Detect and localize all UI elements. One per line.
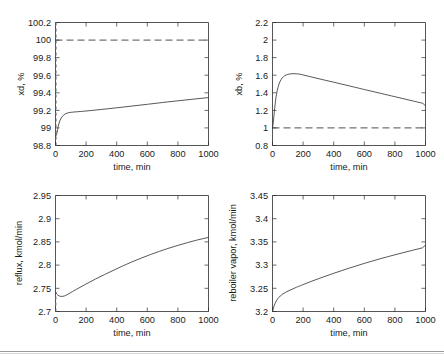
- x-tick-label: 0: [270, 315, 275, 325]
- y-tick-label: 99.8: [33, 53, 51, 63]
- chart-panel-xb: 0.8 1 1.2 1.4 1.6 1.8 2 2.2 0 200 400 60…: [222, 0, 444, 181]
- y-axis-title: xb, %: [234, 73, 244, 96]
- chart-svg-xd: 98.8 99 99.2 99.4 99.6 99.8 100 100.2 0 …: [0, 0, 222, 181]
- x-tick-label: 0: [53, 315, 58, 325]
- figure-bottom-divider-shadow: [0, 353, 444, 354]
- axis-box-xb: [273, 23, 426, 146]
- y-tick-label: 3.35: [250, 237, 268, 247]
- y-axis-title: xd, %: [16, 73, 26, 96]
- x-tick-label: 800: [170, 315, 185, 325]
- y-ticks-xd: [56, 23, 209, 146]
- x-tick-label: 0: [53, 149, 58, 159]
- y-tick-label: 2.2: [255, 18, 268, 28]
- chart-panel-reboiler-vapor: 3.2 3.25 3.3 3.35 3.4 3.45 0 200 400 600…: [222, 181, 444, 351]
- y-tick-label: 1.4: [255, 88, 268, 98]
- x-axis-title: time, min: [330, 162, 367, 172]
- series-reflux: [56, 237, 209, 296]
- chart-panel-xd: 98.8 99 99.2 99.4 99.6 99.8 100 100.2 0 …: [0, 0, 222, 181]
- y-axis-title: reboiler vapor, kmol/min: [228, 204, 238, 302]
- y-ticks-reboiler-vapor: [273, 196, 426, 312]
- axis-box-reboiler-vapor: [273, 196, 426, 312]
- y-axis-title: reflux, kmol/min: [14, 221, 24, 285]
- y-tick-label: 98.8: [33, 141, 51, 151]
- x-tick-label: 400: [109, 149, 124, 159]
- x-axis-title: time, min: [113, 162, 150, 172]
- x-tick-label: 1000: [415, 315, 435, 325]
- x-tick-label: 600: [140, 315, 155, 325]
- x-tick-label: 200: [78, 149, 93, 159]
- y-tick-label: 0.8: [255, 141, 268, 151]
- x-tick-label: 600: [357, 315, 372, 325]
- y-tick-label: 100: [36, 35, 51, 45]
- x-tick-label: 800: [170, 149, 185, 159]
- x-ticks-xb: [273, 23, 426, 146]
- y-tick-label: 2.7: [38, 307, 51, 317]
- y-tick-label: 99.4: [33, 88, 51, 98]
- axis-box-reflux: [56, 196, 209, 312]
- x-tick-label: 200: [78, 315, 93, 325]
- x-axis-title: time, min: [113, 328, 150, 338]
- series-xd: [56, 98, 209, 137]
- y-tick-label: 100.2: [28, 18, 51, 28]
- y-tick-label: 1.6: [255, 71, 268, 81]
- y-tick-label: 2.9: [38, 214, 51, 224]
- series-reboiler-vapor: [273, 245, 426, 311]
- y-tick-label: 3.3: [255, 260, 268, 270]
- y-tick-label: 99.2: [33, 106, 51, 116]
- x-tick-label: 1000: [415, 149, 435, 159]
- x-ticks-xd: [56, 23, 209, 146]
- x-tick-label: 200: [295, 315, 310, 325]
- x-tick-label: 1000: [198, 315, 218, 325]
- y-tick-label: 1.8: [255, 53, 268, 63]
- x-tick-label: 200: [295, 149, 310, 159]
- x-tick-label: 800: [387, 149, 402, 159]
- y-tick-label: 2.85: [33, 237, 51, 247]
- x-tick-label: 400: [326, 315, 341, 325]
- x-tick-label: 400: [326, 149, 341, 159]
- x-tick-label: 0: [270, 149, 275, 159]
- x-tick-label: 600: [357, 149, 372, 159]
- y-tick-label: 2.75: [33, 284, 51, 294]
- y-tick-label: 3.2: [255, 307, 268, 317]
- chart-svg-reflux: 2.7 2.75 2.8 2.85 2.9 2.95 0 200 400 600…: [0, 181, 222, 351]
- x-tick-label: 1000: [198, 149, 218, 159]
- y-tick-label: 1.2: [255, 106, 268, 116]
- y-tick-label: 99.6: [33, 71, 51, 81]
- y-tick-label: 3.4: [255, 214, 268, 224]
- figure-bottom-divider: [0, 351, 444, 352]
- series-xb: [273, 74, 426, 128]
- x-ticks-reflux: [56, 196, 209, 312]
- y-tick-label: 2.95: [33, 191, 51, 201]
- axis-box-xd: [56, 23, 209, 146]
- x-tick-label: 600: [140, 149, 155, 159]
- y-tick-label: 3.25: [250, 284, 268, 294]
- y-tick-label: 3.45: [250, 191, 268, 201]
- x-ticks-reboiler-vapor: [273, 196, 426, 312]
- y-tick-label: 1: [263, 123, 268, 133]
- y-ticks-xb: [273, 23, 426, 146]
- chart-svg-reboiler-vapor: 3.2 3.25 3.3 3.35 3.4 3.45 0 200 400 600…: [222, 181, 444, 351]
- y-tick-label: 2.8: [38, 260, 51, 270]
- chart-svg-xb: 0.8 1 1.2 1.4 1.6 1.8 2 2.2 0 200 400 60…: [222, 0, 444, 181]
- y-ticks-reflux: [56, 196, 209, 312]
- chart-panel-reflux: 2.7 2.75 2.8 2.85 2.9 2.95 0 200 400 600…: [0, 181, 222, 351]
- y-tick-label: 99: [41, 123, 51, 133]
- figure-panel-grid: 98.8 99 99.2 99.4 99.6 99.8 100 100.2 0 …: [0, 0, 444, 362]
- x-tick-label: 400: [109, 315, 124, 325]
- x-tick-label: 800: [387, 315, 402, 325]
- x-axis-title: time, min: [330, 328, 367, 338]
- y-tick-label: 2: [263, 35, 268, 45]
